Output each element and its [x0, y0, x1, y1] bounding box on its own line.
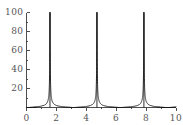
x-tick-label-10: 10 — [166, 114, 183, 123]
curve-branch-1 — [50, 13, 97, 108]
chart-plot: 20406080100 0246810 — [0, 0, 183, 125]
x-tick-label-4: 4 — [76, 114, 96, 123]
x-tick-label-8: 8 — [136, 114, 156, 123]
x-tick-label-2: 2 — [46, 114, 66, 123]
y-tick-label-80: 80 — [11, 27, 23, 36]
x-tick-label-0: 0 — [17, 114, 37, 123]
x-tick-label-6: 6 — [106, 114, 126, 123]
y-tick-label-20: 20 — [11, 84, 23, 93]
curve-group — [27, 13, 177, 108]
y-tick-label-60: 60 — [11, 46, 23, 55]
y-tick-label-100: 100 — [5, 8, 23, 17]
curve-branch-3 — [144, 13, 176, 108]
y-tick-label-40: 40 — [11, 65, 23, 74]
curve-branch-2 — [97, 13, 144, 108]
chart-canvas — [0, 0, 183, 125]
curve-branch-0 — [27, 13, 50, 108]
